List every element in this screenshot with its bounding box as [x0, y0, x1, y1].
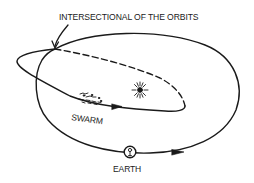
earth-icon [124, 146, 136, 158]
earth-label: EARTH [113, 164, 141, 174]
orbit-diagram: INTERSECTIONAL OF THE ORBITS SWARM EARTH [0, 0, 254, 183]
sun-icon [132, 82, 148, 98]
swarm-orbit-arrow-icon [112, 104, 122, 110]
intersection-pointer-arrow [55, 25, 68, 46]
intersection-caption: INTERSECTIONAL OF THE ORBITS [59, 12, 199, 22]
